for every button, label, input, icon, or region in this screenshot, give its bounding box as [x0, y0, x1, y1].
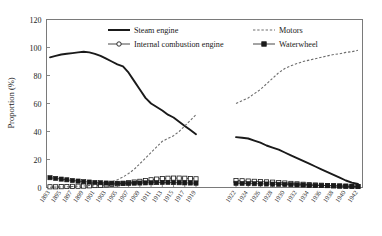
- data-point-marker: [325, 184, 329, 188]
- data-point-marker: [356, 184, 360, 188]
- series-line-right: [236, 137, 358, 184]
- data-point-marker: [234, 181, 238, 185]
- x-tick-label: 1905: [105, 189, 118, 203]
- data-point-marker: [160, 176, 164, 180]
- legend-item: Internal combustion engine: [108, 40, 224, 49]
- data-point-marker: [350, 184, 354, 188]
- legend-item: Steam engine: [108, 26, 179, 35]
- data-point-marker: [115, 181, 119, 185]
- x-tick-label: 1926: [248, 189, 261, 203]
- x-tick-label: 1922: [224, 189, 237, 203]
- data-point-marker: [121, 181, 125, 185]
- data-point-marker: [171, 181, 175, 185]
- x-tick-label: 1936: [309, 189, 322, 203]
- chart-legend: Steam engineMotorsInternal combustion en…: [108, 26, 319, 49]
- data-point-marker: [295, 183, 299, 187]
- series-layer: [48, 50, 360, 189]
- data-point-marker: [258, 182, 262, 186]
- line-chart: 020406080100120 Proportion (%) 189318951…: [0, 0, 382, 236]
- legend-item: Motors: [253, 26, 303, 35]
- y-tick-label: 40: [34, 128, 42, 137]
- data-point-marker: [127, 181, 131, 185]
- y-tick-label: 80: [34, 72, 42, 81]
- y-tick-label: 100: [30, 44, 42, 53]
- legend-label: Internal combustion engine: [134, 40, 224, 49]
- data-point-marker: [271, 182, 275, 186]
- y-tick-label: 20: [34, 156, 42, 165]
- data-point-marker: [289, 183, 293, 187]
- data-point-marker: [313, 183, 317, 187]
- data-point-marker: [194, 177, 198, 181]
- data-point-marker: [70, 178, 74, 182]
- x-tick-label: 1930: [273, 189, 286, 203]
- data-point-marker: [171, 176, 175, 180]
- legend-label: Steam engine: [134, 26, 179, 35]
- y-tick-label: 60: [34, 100, 42, 109]
- x-tick-label: 1934: [297, 188, 311, 203]
- x-tick-label: 1932: [285, 189, 298, 203]
- data-point-marker: [138, 181, 142, 185]
- data-point-marker: [166, 176, 170, 180]
- x-tick-label: 1938: [321, 189, 334, 203]
- x-tick-label: 1909: [128, 189, 141, 203]
- chart-container: 020406080100120 Proportion (%) 189318951…: [0, 0, 382, 236]
- data-point-marker: [54, 176, 58, 180]
- data-point-marker: [59, 177, 63, 181]
- data-point-marker: [110, 181, 114, 185]
- x-tick-label: 1897: [60, 188, 74, 203]
- data-point-marker: [177, 176, 181, 180]
- data-point-marker: [264, 182, 268, 186]
- data-point-marker: [252, 182, 256, 186]
- data-point-marker: [65, 178, 69, 182]
- data-point-marker: [188, 176, 192, 180]
- x-tick-label: 1942: [346, 189, 359, 203]
- x-tick-label: 1928: [260, 189, 273, 203]
- data-point-marker: [93, 180, 97, 184]
- data-point-marker: [301, 183, 305, 187]
- y-tick-label: 0: [38, 184, 42, 193]
- series-steam-engine: [50, 52, 358, 184]
- data-point-marker: [194, 181, 198, 185]
- data-point-marker: [132, 181, 136, 185]
- data-point-marker: [246, 181, 250, 185]
- x-tick-label: 1915: [161, 189, 174, 203]
- data-point-marker: [48, 176, 52, 180]
- x-tick-label: 1901: [83, 189, 96, 203]
- data-point-marker: [183, 176, 187, 180]
- x-tick-label: 1919: [184, 189, 197, 203]
- data-point-marker: [160, 180, 164, 184]
- x-tick-label: 1924: [236, 188, 250, 203]
- x-tick-label: 1940: [334, 189, 347, 203]
- y-tick-label: 120: [30, 16, 42, 25]
- data-point-marker: [307, 183, 311, 187]
- series-motors: [50, 50, 358, 187]
- data-point-marker: [98, 181, 102, 185]
- data-point-marker: [319, 183, 323, 187]
- data-point-marker: [240, 181, 244, 185]
- series-line-right: [236, 50, 358, 103]
- legend-swatch-marker: [117, 42, 121, 46]
- x-tick-label: 1911: [139, 189, 152, 203]
- x-tick-label: 1913: [150, 189, 163, 203]
- x-tick-label: 1907: [116, 188, 130, 203]
- data-point-marker: [76, 179, 80, 183]
- data-point-marker: [283, 182, 287, 186]
- data-point-marker: [277, 182, 281, 186]
- data-point-marker: [344, 184, 348, 188]
- data-point-marker: [149, 181, 153, 185]
- data-point-marker: [166, 180, 170, 184]
- data-point-marker: [143, 181, 147, 185]
- y-axis-title: Proportion (%): [6, 77, 16, 128]
- data-point-marker: [177, 181, 181, 185]
- data-point-marker: [87, 180, 91, 184]
- series-line-left: [50, 52, 196, 135]
- data-point-marker: [188, 181, 192, 185]
- x-tick-label: 1895: [49, 189, 62, 203]
- data-point-marker: [82, 180, 86, 184]
- data-point-marker: [183, 181, 187, 185]
- data-point-marker: [338, 184, 342, 188]
- legend-item: Waterwheel: [253, 40, 319, 49]
- data-point-marker: [155, 181, 159, 185]
- legend-label: Waterwheel: [279, 40, 319, 49]
- x-tick-label: 1917: [173, 188, 187, 203]
